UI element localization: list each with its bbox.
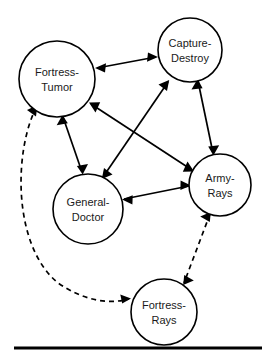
edge-general-doctor-army-rays[interactable] (122, 181, 191, 205)
edge-line (97, 57, 156, 68)
analogy-network-graph: Fortress- Tumor Capture- Destroy General… (0, 0, 275, 361)
edge-fortress-tumor-capture-destroy[interactable] (95, 53, 158, 73)
node-general-doctor[interactable]: General- Doctor (53, 174, 123, 244)
node-circle (189, 154, 251, 216)
edge-fortress-tumor-army-rays[interactable] (89, 102, 194, 171)
node-fortress-tumor[interactable]: Fortress- Tumor (19, 41, 95, 117)
edge-general-doctor-capture-destroy[interactable] (102, 80, 169, 179)
node-layer: Fortress- Tumor Capture- Destroy General… (19, 18, 251, 345)
diagram-canvas: Fortress- Tumor Capture- Destroy General… (0, 0, 275, 361)
arrowhead-to-fortress-rays (183, 275, 194, 285)
node-fortress-rays[interactable]: Fortress- Rays (131, 279, 197, 345)
node-circle (131, 279, 197, 345)
arrowhead-to-capture-destroy (147, 53, 158, 62)
arrowhead-to-general-doctor (77, 164, 88, 175)
node-army-rays[interactable]: Army- Rays (189, 154, 251, 216)
arrowhead-to-fortress-tumor (89, 102, 100, 112)
edge-line (198, 81, 213, 153)
node-circle (158, 18, 222, 82)
edge-line (124, 186, 189, 199)
edge-line (184, 214, 210, 283)
node-circle (53, 174, 123, 244)
edge-line (63, 117, 82, 172)
edge-line (103, 82, 168, 177)
edge-capture-destroy-army-rays[interactable] (192, 79, 220, 156)
arrowhead-to-general-doctor (122, 195, 133, 204)
edge-line (91, 104, 192, 170)
edge-fortress-tumor-general-doctor[interactable] (57, 115, 88, 175)
edge-army-rays-fortress-rays[interactable] (183, 212, 211, 285)
arrowhead-to-fortress-rays (120, 295, 131, 304)
node-capture-destroy[interactable]: Capture- Destroy (158, 18, 222, 82)
node-circle (19, 41, 95, 117)
arrowhead-to-fortress-tumor (95, 63, 106, 72)
